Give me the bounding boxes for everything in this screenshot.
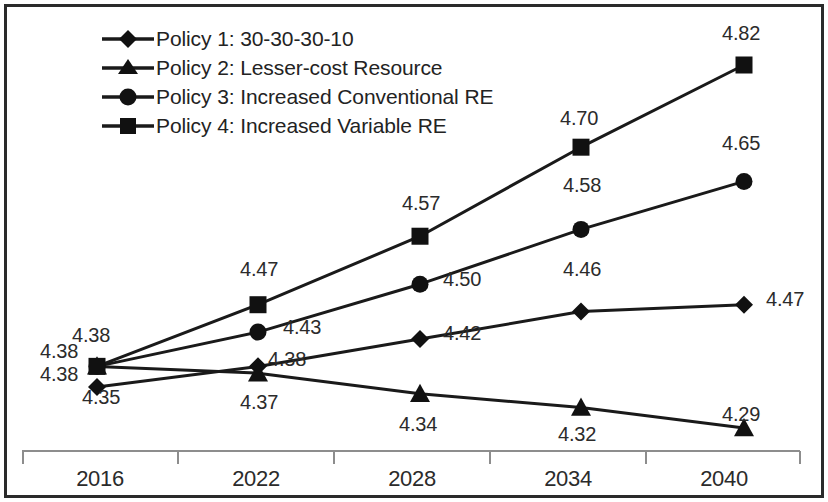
legend-label-policy-1: Policy 1: 30-30-30-10 bbox=[156, 27, 354, 51]
circle-data-point bbox=[736, 173, 753, 190]
circle-marker-icon bbox=[100, 85, 156, 109]
data-label-2034-policy2: 4.32 bbox=[558, 423, 596, 446]
x-axis bbox=[22, 451, 800, 464]
legend-item-policy-4: Policy 4: Increased Variable RE bbox=[100, 111, 530, 140]
data-label-2040-policy3: 4.65 bbox=[722, 132, 760, 155]
x-tick-label-2040: 2040 bbox=[659, 466, 789, 492]
chart-figure: Policy 1: 30-30-30-10 Policy 2: Lesser-c… bbox=[0, 0, 828, 502]
data-label-2028-policy3: 4.50 bbox=[443, 268, 481, 291]
legend-item-policy-1: Policy 1: 30-30-30-10 bbox=[100, 24, 530, 53]
x-tick-label-2034: 2034 bbox=[503, 466, 633, 492]
data-label-2016-policy1: 4.35 bbox=[82, 386, 120, 409]
data-label-2034-policy4: 4.70 bbox=[560, 107, 598, 130]
legend-item-policy-2: Policy 2: Lesser-cost Resource bbox=[100, 53, 530, 82]
data-label-2040-policy2: 4.29 bbox=[722, 403, 760, 426]
data-label-2040-policy1: 4.47 bbox=[766, 288, 804, 311]
square-data-point bbox=[89, 358, 106, 375]
data-label-2022-policy4: 4.47 bbox=[240, 258, 278, 281]
data-label-2022-policy3: 4.43 bbox=[283, 316, 321, 339]
diamond-data-point bbox=[735, 296, 753, 314]
data-label-2034-policy1: 4.46 bbox=[563, 258, 601, 281]
diamond-data-point bbox=[411, 330, 429, 348]
data-label-2028-policy4: 4.57 bbox=[402, 192, 440, 215]
square-data-point bbox=[412, 228, 429, 245]
data-label-2022-policy2: 4.37 bbox=[240, 391, 278, 414]
data-label-2040-policy4: 4.82 bbox=[722, 22, 760, 45]
square-marker-icon bbox=[100, 114, 156, 138]
square-data-point bbox=[736, 57, 753, 74]
chart-legend: Policy 1: 30-30-30-10 Policy 2: Lesser-c… bbox=[100, 24, 530, 140]
circle-data-point bbox=[412, 276, 429, 293]
data-label-2016-policy3: 4.38 bbox=[40, 340, 78, 363]
legend-label-policy-4: Policy 4: Increased Variable RE bbox=[156, 114, 447, 138]
data-label-2028-policy2: 4.34 bbox=[399, 413, 437, 436]
data-label-2028-policy1: 4.42 bbox=[443, 322, 481, 345]
square-data-point bbox=[573, 139, 590, 156]
x-tick-label-2028: 2028 bbox=[347, 466, 477, 492]
x-tick-label-2016: 2016 bbox=[35, 466, 165, 492]
legend-label-policy-2: Policy 2: Lesser-cost Resource bbox=[156, 56, 442, 80]
diamond-marker-icon bbox=[100, 27, 156, 51]
legend-label-policy-3: Policy 3: Increased Conventional RE bbox=[156, 85, 493, 109]
square-data-point bbox=[250, 296, 267, 313]
triangle-marker-icon bbox=[100, 56, 156, 80]
data-label-2022-policy1: 4.38 bbox=[268, 348, 306, 371]
diamond-data-point bbox=[572, 303, 590, 321]
data-label-2016-policy2: 4.38 bbox=[40, 363, 78, 386]
legend-item-policy-3: Policy 3: Increased Conventional RE bbox=[100, 82, 530, 111]
x-tick-label-2022: 2022 bbox=[191, 466, 321, 492]
data-label-2034-policy3: 4.58 bbox=[563, 174, 601, 197]
circle-data-point bbox=[250, 324, 267, 341]
circle-data-point bbox=[573, 221, 590, 238]
